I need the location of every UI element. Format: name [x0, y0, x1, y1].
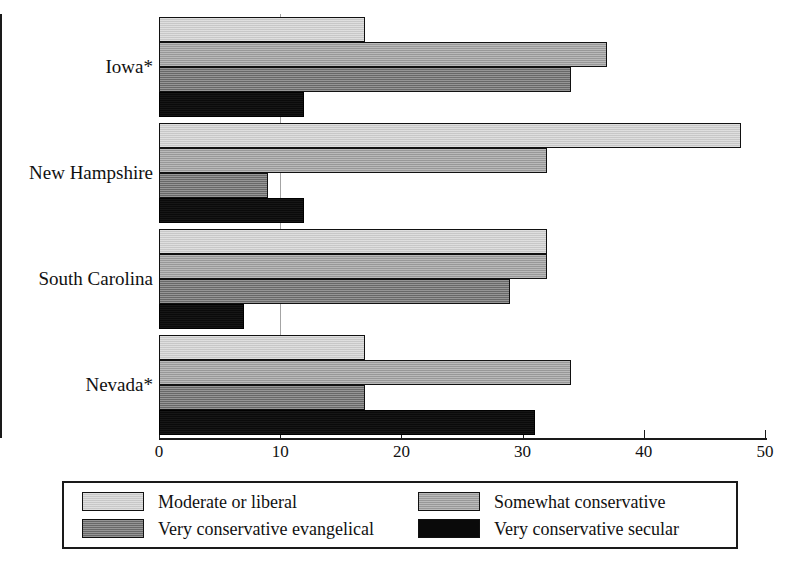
legend-swatch-icon: [82, 519, 144, 538]
x-tick-label: 50: [745, 442, 785, 462]
x-tick-label: 30: [503, 442, 543, 462]
category-label: New Hampshire: [3, 162, 153, 184]
legend-item: Somewhat conservative: [400, 492, 736, 512]
category-label: Iowa*: [3, 56, 153, 78]
bar: [159, 173, 268, 198]
bar: [159, 229, 547, 254]
bar: [159, 17, 365, 42]
x-tick-label: 10: [260, 442, 300, 462]
legend-label: Very conservative evangelical: [158, 519, 374, 539]
legend-swatch-icon: [418, 492, 480, 511]
bar: [159, 304, 244, 329]
bar: [159, 410, 535, 435]
legend-item: Moderate or liberal: [64, 492, 400, 512]
legend-item: Very conservative evangelical: [64, 519, 400, 539]
bar: [159, 92, 304, 117]
bar: [159, 148, 547, 173]
bar: [159, 198, 304, 223]
legend-label: Very conservative secular: [494, 519, 679, 539]
chart-legend: Moderate or liberalSomewhat conservative…: [62, 481, 738, 549]
bar: [159, 385, 365, 410]
legend-label: Somewhat conservative: [494, 492, 665, 512]
bar: [159, 335, 365, 360]
plot-area: [159, 14, 765, 438]
x-axis-line: [159, 438, 767, 440]
bar: [159, 254, 547, 279]
x-tick-label: 20: [381, 442, 421, 462]
bar: [159, 67, 571, 92]
category-label: Nevada*: [3, 374, 153, 396]
x-tick-label: 40: [624, 442, 664, 462]
x-tick-50: [765, 430, 766, 439]
bar: [159, 42, 607, 67]
category-label: South Carolina: [3, 268, 153, 290]
bar: [159, 123, 741, 148]
legend-label: Moderate or liberal: [158, 492, 297, 512]
legend-swatch-icon: [418, 519, 480, 538]
legend-item: Very conservative secular: [400, 519, 736, 539]
legend-swatch-icon: [82, 492, 144, 511]
bar: [159, 279, 510, 304]
bar: [159, 360, 571, 385]
bar-chart: 01020304050 Iowa*New HampshireSouth Caro…: [0, 0, 801, 570]
